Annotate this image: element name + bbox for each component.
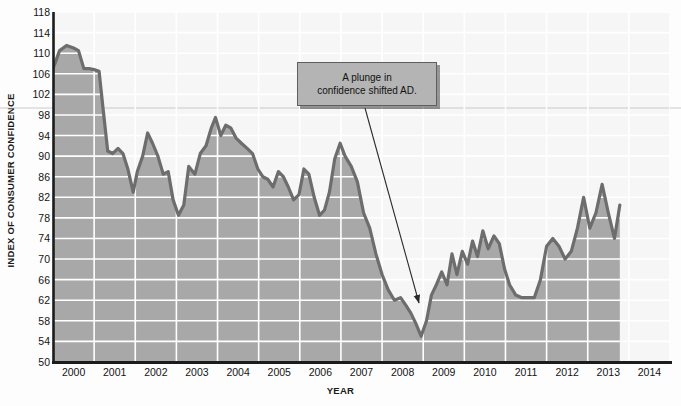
x-tick-label: 2012 bbox=[555, 366, 578, 378]
x-tick-label: 2011 bbox=[515, 366, 538, 378]
x-tick-label: 2005 bbox=[268, 366, 291, 378]
x-tick-label: 2003 bbox=[185, 366, 208, 378]
chart-figure: INDEX OF CONSUMER CONFIDENCE 50545862667… bbox=[0, 0, 681, 406]
x-tick-label: 2014 bbox=[638, 366, 661, 378]
x-tick-label: 2009 bbox=[432, 366, 455, 378]
x-tick-label: 2004 bbox=[226, 366, 249, 378]
x-tick-label: 2010 bbox=[473, 366, 496, 378]
x-tick-label: 2013 bbox=[597, 366, 620, 378]
x-tick-label: 2006 bbox=[309, 366, 332, 378]
x-tick-label: 2008 bbox=[391, 366, 414, 378]
x-axis-title: YEAR bbox=[0, 385, 681, 396]
annotation-line-1: A plunge in bbox=[342, 72, 392, 83]
plot-area bbox=[0, 0, 681, 406]
annotation-line-2: confidence shifted AD. bbox=[317, 85, 417, 96]
x-tick-label: 2000 bbox=[62, 366, 85, 378]
annotation-callout: A plunge in confidence shifted AD. bbox=[297, 62, 437, 106]
x-tick-label: 2001 bbox=[103, 366, 126, 378]
x-axis-tick-labels: 2000200120022003200420052006200720082009… bbox=[0, 366, 681, 386]
annotation-callout-text: A plunge in confidence shifted AD. bbox=[313, 71, 421, 97]
x-tick-label: 2002 bbox=[144, 366, 167, 378]
x-tick-label: 2007 bbox=[350, 366, 373, 378]
